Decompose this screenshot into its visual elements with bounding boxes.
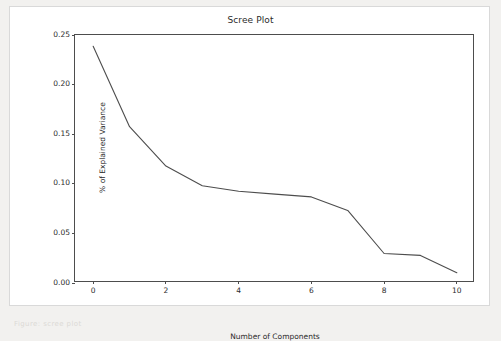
y-axis-label: % of Explained Variance (98, 73, 107, 223)
x-tick-label: 0 (81, 286, 105, 295)
y-tick-mark (72, 183, 75, 184)
chart-title: Scree Plot (10, 15, 491, 25)
x-tick-mark (456, 281, 457, 284)
scree-plot-line-svg (75, 35, 475, 283)
plot-area: 0.00 0.05 0.10 0.15 0.20 0.25 (74, 34, 474, 282)
x-tick-mark (93, 281, 94, 284)
y-tick-mark (72, 35, 75, 36)
y-tick-label: 0.15 (53, 129, 70, 138)
page-footer-caption: Figure: scree plot (14, 320, 82, 328)
y-tick-mark (72, 233, 75, 234)
x-tick-mark (311, 281, 312, 284)
explained-variance-line (93, 46, 457, 272)
x-tick-label: 6 (299, 286, 323, 295)
x-tick-mark (238, 281, 239, 284)
y-tick-mark (72, 283, 75, 284)
x-tick-label: 2 (154, 286, 178, 295)
y-tick-label: 0.25 (53, 30, 70, 39)
y-tick-mark (72, 84, 75, 85)
y-tick-mark (72, 134, 75, 135)
x-tick-mark (384, 281, 385, 284)
y-tick-label: 0.10 (53, 178, 70, 187)
x-tick-label: 10 (445, 286, 469, 295)
x-tick-label: 8 (372, 286, 396, 295)
x-tick-mark (165, 281, 166, 284)
y-tick-label: 0.00 (53, 278, 70, 287)
y-tick-label: 0.05 (53, 228, 70, 237)
x-axis-label: Number of Components (75, 332, 475, 341)
x-tick-label: 4 (227, 286, 251, 295)
y-tick-label: 0.20 (53, 79, 70, 88)
figure-panel: Scree Plot 0.00 0.05 0.10 0.15 (9, 6, 490, 306)
